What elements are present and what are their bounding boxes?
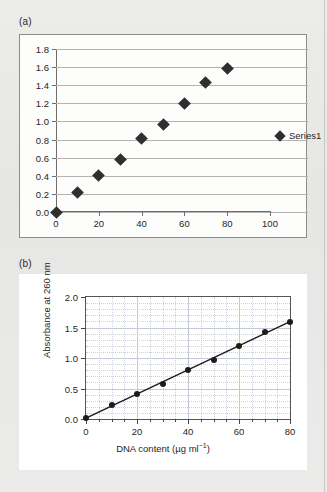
x-axis-title-tail: ): [207, 443, 210, 454]
panel-a-y-tick: [52, 67, 56, 68]
panel-b-x-minor-tick: [150, 419, 151, 422]
panel-a-data-point: [178, 97, 191, 110]
panel-b-regression-line: [86, 297, 290, 419]
panel-a-gridline: [56, 49, 308, 50]
panel-b-y-tick-label: 0.0: [65, 414, 78, 425]
panel-a-gridline: [56, 140, 308, 141]
panel-b-plot-frame: Absorbance at 260 nm 0204060800.00.51.01…: [19, 274, 307, 470]
panel-a-y-tick-label: 1.4: [36, 80, 49, 91]
panel-a-y-tick-label: 1.0: [36, 116, 49, 127]
panel-b-data-point: [287, 319, 293, 325]
legend-diamond-marker-icon: [274, 130, 285, 141]
panel-a-x-tick-label: 0: [53, 218, 58, 229]
panel-a-data-point: [157, 118, 170, 131]
panel-b-x-minor-tick: [201, 419, 202, 422]
panel-a-x-tick-label: 80: [222, 218, 233, 229]
panel-a-x-tick-label: 100: [262, 218, 278, 229]
x-axis-title-exponent: −1: [199, 442, 207, 449]
panel-b-y-tick-label: 1.5: [65, 322, 78, 333]
panel-a-data-point: [50, 206, 63, 219]
panel-a-y-tick-label: 1.6: [36, 62, 49, 73]
panel-b-label: (b): [19, 258, 32, 269]
panel-b-x-tick-label: 20: [132, 426, 143, 437]
panel-a-x-tick-label: 60: [179, 218, 190, 229]
panel-b-data-point: [236, 343, 242, 349]
panel-b-x-minor-tick: [124, 419, 125, 422]
panel-b-data-point: [185, 367, 191, 373]
panel-a-y-tick: [52, 103, 56, 104]
panel-a-data-point: [135, 132, 148, 145]
panel-b-data-point: [83, 415, 89, 421]
panel-b-x-minor-tick: [252, 419, 253, 422]
panel-a-y-tick: [52, 158, 56, 159]
panel-a-x-tick: [227, 212, 228, 216]
panel-a-legend: Series1: [276, 130, 321, 141]
panel-b-x-axis-title: DNA content (µg ml−1): [19, 442, 307, 454]
panel-a-x-tick-label: 20: [94, 218, 105, 229]
panel-b-x-tick-label: 40: [183, 426, 194, 437]
panel-b-x-tick-label: 60: [234, 426, 245, 437]
panel-b-y-tick-label: 2.0: [65, 292, 78, 303]
panel-a-y-tick-label: 0.2: [36, 188, 49, 199]
panel-a-x-tick: [142, 212, 143, 216]
panel-a-y-tick: [52, 85, 56, 86]
chart-panel-a: (a) 0.00.20.40.60.81.01.21.41.61.8020406…: [0, 8, 327, 246]
panel-a-x-tick: [99, 212, 100, 216]
panel-a-y-tick: [52, 140, 56, 141]
panel-a-label: (a): [19, 16, 32, 27]
panel-b-x-minor-tick: [277, 419, 278, 422]
figure-page: (a) 0.00.20.40.60.81.01.21.41.61.8020406…: [0, 0, 327, 492]
panel-a-x-tick: [184, 212, 185, 216]
panel-a-plot-frame: 0.00.20.40.60.81.01.21.41.61.80204060801…: [19, 34, 307, 238]
panel-a-data-point: [114, 153, 127, 166]
panel-a-y-tick: [52, 121, 56, 122]
panel-a-gridline: [56, 194, 308, 195]
panel-a-y-tick: [52, 176, 56, 177]
panel-a-y-tick: [52, 194, 56, 195]
panel-b-data-point: [211, 357, 217, 363]
panel-a-y-tick-label: 1.2: [36, 98, 49, 109]
panel-a-gridline: [56, 67, 308, 68]
x-axis-title-text: DNA content (µg ml: [116, 443, 199, 454]
panel-b-data-point: [109, 402, 115, 408]
panel-a-y-tick-label: 1.8: [36, 44, 49, 55]
panel-b-x-tick: [239, 419, 240, 424]
panel-a-plot-area: 0.00.20.40.60.81.01.21.41.61.80204060801…: [56, 49, 270, 212]
panel-b-x-minor-tick: [99, 419, 100, 422]
panel-a-data-point: [199, 76, 212, 89]
panel-b-y-tick-label: 0.5: [65, 383, 78, 394]
panel-a-data-point: [71, 187, 84, 200]
panel-a-x-tick: [270, 212, 271, 216]
panel-a-x-tick-label: 40: [136, 218, 147, 229]
panel-a-y-tick-label: 0.0: [36, 207, 49, 218]
panel-b-plot-area: 0204060800.00.51.01.52.0: [85, 296, 291, 420]
panel-a-gridline: [56, 85, 308, 86]
panel-b-y-axis-title: Absorbance at 260 nm: [41, 262, 52, 358]
legend-label-series1: Series1: [289, 130, 321, 141]
panel-a-y-tick-label: 0.4: [36, 170, 49, 181]
panel-a-gridline: [56, 158, 308, 159]
panel-a-y-tick-label: 0.8: [36, 134, 49, 145]
chart-panel-b: (b) Absorbance at 260 nm 0204060800.00.5…: [0, 252, 327, 492]
panel-b-y-tick-label: 1.0: [65, 353, 78, 364]
panel-b-x-tick-label: 0: [83, 426, 88, 437]
panel-b-x-minor-tick: [163, 419, 164, 422]
panel-b-x-minor-tick: [112, 419, 113, 422]
panel-b-x-minor-tick: [214, 419, 215, 422]
panel-a-y-tick: [52, 49, 56, 50]
panel-b-x-tick: [188, 419, 189, 424]
panel-b-x-minor-tick: [175, 419, 176, 422]
panel-b-data-point: [262, 329, 268, 335]
panel-a-data-point: [92, 169, 105, 182]
panel-b-x-minor-tick: [226, 419, 227, 422]
panel-b-x-tick: [137, 419, 138, 424]
panel-a-gridline: [56, 121, 308, 122]
panel-a-data-point: [221, 62, 234, 75]
panel-b-data-point: [134, 391, 140, 397]
panel-a-y-tick-label: 0.6: [36, 152, 49, 163]
panel-b-x-tick-label: 80: [285, 426, 296, 437]
panel-b-data-point: [160, 381, 166, 387]
panel-b-x-minor-tick: [265, 419, 266, 422]
panel-b-x-tick: [290, 419, 291, 424]
panel-a-y-axis: [56, 49, 57, 213]
